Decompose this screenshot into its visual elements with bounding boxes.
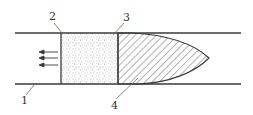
hatched-plug bbox=[118, 33, 209, 84]
label-3: 3 bbox=[123, 11, 130, 24]
label-2: 2 bbox=[49, 10, 56, 23]
pipe-diagram: 2 3 1 4 bbox=[0, 0, 253, 115]
label-1: 1 bbox=[21, 94, 28, 107]
label-4: 4 bbox=[111, 99, 118, 112]
flow-arrows bbox=[39, 50, 58, 67]
stippled-block bbox=[61, 33, 118, 84]
diagram-canvas: 2 3 1 4 bbox=[0, 0, 253, 115]
leader-line-2 bbox=[54, 23, 62, 33]
